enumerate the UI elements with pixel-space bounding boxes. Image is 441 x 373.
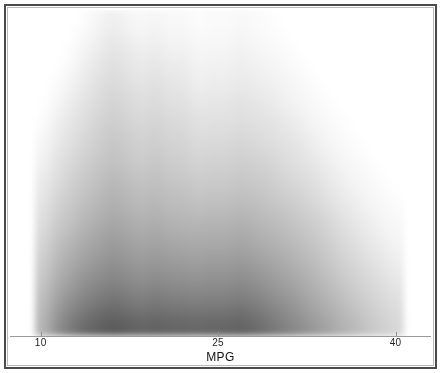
x-tick-label: 25 <box>198 337 238 348</box>
density-heatmap <box>10 10 431 336</box>
x-tick-label: 10 <box>21 337 61 348</box>
x-tick-label: 40 <box>376 337 416 348</box>
plot-area <box>10 10 431 336</box>
figure-container: 102540 MPG <box>0 0 441 373</box>
x-tick-mark <box>218 332 219 336</box>
x-tick-mark <box>396 332 397 336</box>
x-tick-mark <box>41 332 42 336</box>
x-axis-title: MPG <box>0 350 441 364</box>
